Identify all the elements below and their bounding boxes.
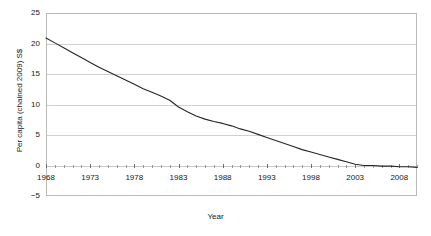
x-major-tick-1988 — [223, 164, 224, 168]
x-axis-label: Year — [0, 212, 431, 221]
y-tick-label-5: 5 — [8, 131, 40, 139]
x-minor-tick-1977 — [126, 165, 127, 168]
y-tick-label-20: 20 — [8, 40, 40, 48]
x-major-tick-2008 — [399, 164, 400, 168]
x-minor-tick-2009 — [408, 165, 409, 168]
x-minor-tick-1979 — [143, 165, 144, 168]
x-minor-tick-1981 — [161, 165, 162, 168]
y-tick-label-10: 10 — [8, 101, 40, 109]
y-tick-label-15: 15 — [8, 70, 40, 78]
x-minor-tick-2000 — [329, 165, 330, 168]
x-major-tick-1978 — [134, 164, 135, 168]
y-tick-label-25: 25 — [8, 9, 40, 17]
x-minor-tick-1990 — [240, 165, 241, 168]
x-minor-tick-1996 — [293, 165, 294, 168]
x-major-tick-1973 — [90, 164, 91, 168]
gridline-y-20 — [47, 44, 416, 45]
x-minor-tick-2005 — [373, 165, 374, 168]
x-minor-tick-2001 — [338, 165, 339, 168]
x-minor-tick-2002 — [346, 165, 347, 168]
x-minor-tick-1986 — [205, 165, 206, 168]
x-minor-tick-1987 — [214, 165, 215, 168]
y-tick-label-0: 0 — [8, 162, 40, 170]
x-tick-label-1978: 1978 — [114, 174, 154, 182]
x-tick-label-1988: 1988 — [203, 174, 243, 182]
x-minor-tick-1991 — [249, 165, 250, 168]
x-minor-tick-1999 — [320, 165, 321, 168]
x-tick-label-1983: 1983 — [159, 174, 199, 182]
x-tick-label-2008: 2008 — [379, 174, 419, 182]
x-minor-tick-1992 — [258, 165, 259, 168]
chart-figure: 2520151050−5 Per capita (chained 2009) S… — [0, 0, 431, 236]
x-minor-tick-2007 — [391, 165, 392, 168]
x-minor-tick-1971 — [73, 165, 74, 168]
x-minor-tick-1969 — [55, 165, 56, 168]
x-major-tick-1983 — [179, 164, 180, 168]
x-minor-tick-1980 — [152, 165, 153, 168]
x-major-tick-1968 — [46, 164, 47, 168]
x-minor-tick-1982 — [170, 165, 171, 168]
y-axis-label: Per capita (chained 2009) S$ — [15, 16, 24, 186]
x-minor-tick-1994 — [276, 165, 277, 168]
x-major-tick-2003 — [355, 164, 356, 168]
y-tick-label--5: −5 — [8, 192, 40, 200]
plot-area — [46, 13, 417, 196]
x-minor-tick-1985 — [196, 165, 197, 168]
gridline-y-15 — [47, 74, 416, 75]
x-minor-tick-1997 — [302, 165, 303, 168]
x-minor-tick-1995 — [285, 165, 286, 168]
x-minor-tick-1975 — [108, 165, 109, 168]
x-minor-tick-1972 — [81, 165, 82, 168]
x-tick-label-1993: 1993 — [247, 174, 287, 182]
gridline-y-5 — [47, 135, 416, 136]
x-major-tick-1998 — [311, 164, 312, 168]
x-tick-label-1968: 1968 — [26, 174, 66, 182]
x-minor-tick-1984 — [187, 165, 188, 168]
x-tick-label-1973: 1973 — [70, 174, 110, 182]
gridline-y-10 — [47, 105, 416, 106]
x-major-tick-1993 — [267, 164, 268, 168]
x-minor-tick-1970 — [64, 165, 65, 168]
x-minor-tick-1989 — [232, 165, 233, 168]
x-minor-tick-2004 — [364, 165, 365, 168]
x-minor-tick-2010 — [417, 165, 418, 168]
x-minor-tick-1976 — [117, 165, 118, 168]
x-minor-tick-1974 — [99, 165, 100, 168]
x-tick-label-2003: 2003 — [335, 174, 375, 182]
x-tick-label-1998: 1998 — [291, 174, 331, 182]
x-minor-tick-2006 — [382, 165, 383, 168]
